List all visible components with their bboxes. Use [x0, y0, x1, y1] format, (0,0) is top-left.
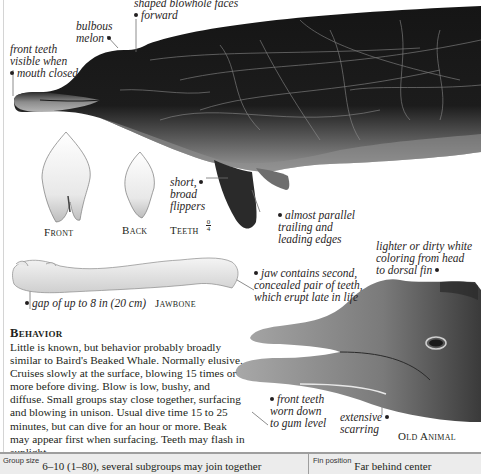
callout-text: to dorsal fin: [376, 264, 432, 276]
callout-text: worn down: [270, 405, 326, 417]
tooth-back-illustration: [125, 152, 154, 218]
group-size-cell: Group size 6–10 (1–80), several subgroup…: [0, 454, 309, 474]
callout-text: jaw contains second,: [261, 267, 357, 279]
field-guide-page: shaped blowhole faces forward bulbous me…: [0, 0, 481, 474]
callout-text: forward: [141, 9, 178, 21]
callout-text-row: short,: [170, 176, 206, 188]
callout-text: broad: [170, 188, 206, 200]
callout-front-teeth: front teeth visible when mouth closed: [10, 43, 78, 79]
callout-text: mouth closed: [17, 67, 78, 79]
callout-text: which erupt late in life: [254, 291, 363, 303]
callout-melon: bulbous melon: [76, 20, 114, 44]
bullet-icon: [435, 268, 439, 272]
teeth-lower-count: 4: [206, 226, 211, 232]
behavior-heading: Behavior: [10, 327, 245, 340]
callout-text: bulbous: [76, 20, 114, 32]
callout-text-row: almost parallel: [278, 209, 355, 221]
fin-position-value: Far behind center: [354, 460, 431, 472]
callout-blowhole: shaped blowhole faces forward: [134, 0, 238, 21]
callout-text: front teeth: [277, 393, 324, 405]
callout-text-row: melon: [76, 32, 114, 44]
callout-text: to gum level: [270, 417, 326, 429]
info-bar: Group size 6–10 (1–80), several subgroup…: [0, 452, 481, 474]
bullet-icon: [254, 271, 258, 275]
behavior-text: Little is known, but behavior probably b…: [10, 341, 245, 459]
callout-text: leading edges: [278, 233, 355, 245]
caption-jawbone: Jawbone: [155, 297, 196, 309]
callout-text: scarring: [340, 423, 392, 435]
callout-text-row: forward: [134, 9, 238, 21]
caption-back: Back: [122, 224, 147, 236]
callout-worn-teeth: front teeth worn down to gum level: [270, 393, 326, 429]
bullet-icon: [107, 36, 111, 40]
callout-jaw: jaw contains second, concealed pair of t…: [254, 267, 363, 303]
callout-text-row: to dorsal fin: [376, 264, 472, 276]
callout-text: flippers: [170, 200, 206, 212]
bullet-icon: [25, 301, 29, 305]
callout-text-row: extensive: [340, 411, 392, 423]
callout-text: melon: [76, 32, 104, 44]
bullet-icon: [134, 13, 138, 17]
callout-text-row: jaw contains second,: [254, 267, 363, 279]
caption-front: Front: [44, 226, 73, 238]
callout-flipper-edges: almost parallel trailing and leading edg…: [278, 209, 355, 245]
callout-coloring: lighter or dirty white coloring from hea…: [376, 240, 472, 276]
bullet-icon: [199, 180, 203, 184]
fin-position-label: Fin position: [313, 456, 351, 465]
callout-flippers: short, broad flippers: [170, 176, 206, 212]
fin-position-cell: Fin position Far behind center: [309, 454, 481, 474]
callout-text-row: front teeth: [270, 393, 326, 405]
teeth-formula: 0 4: [206, 219, 211, 232]
callout-text-row: mouth closed: [10, 67, 78, 79]
callout-text: almost parallel: [285, 209, 355, 221]
callout-text: lighter or dirty white: [376, 240, 472, 252]
bullet-icon: [385, 415, 389, 419]
callout-text: short,: [170, 176, 197, 188]
caption-old-animal: Old Animal: [398, 430, 456, 442]
callout-scarring: extensive scarring: [340, 411, 392, 435]
callout-text: concealed pair of teeth,: [254, 279, 363, 291]
tooth-front-illustration: [42, 132, 90, 222]
group-size-label: Group size: [3, 456, 39, 465]
jawbone-illustration: [13, 258, 239, 293]
callout-text: shaped blowhole faces: [134, 0, 238, 9]
bullet-icon: [270, 397, 274, 401]
bullet-icon: [10, 71, 14, 75]
bullet-icon: [278, 213, 282, 217]
callout-text: visible when: [10, 55, 78, 67]
callout-text: front teeth: [10, 43, 78, 55]
callout-text: coloring from head: [376, 252, 472, 264]
callout-text: extensive: [340, 411, 382, 423]
behavior-section: Behavior Little is known, but behavior p…: [10, 327, 245, 459]
callout-text: trailing and: [278, 221, 355, 233]
callout-text: gap of up to 8 in (20 cm): [32, 297, 146, 309]
caption-teeth: Teeth: [170, 224, 199, 236]
callout-gap: gap of up to 8 in (20 cm): [25, 297, 146, 309]
group-size-value: 6–10 (1–80), several subgroups may join …: [42, 460, 261, 472]
